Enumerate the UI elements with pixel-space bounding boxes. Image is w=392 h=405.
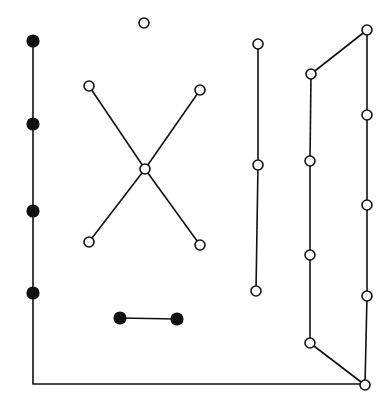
filled-node-b1 xyxy=(114,312,126,324)
filled-node-f4 xyxy=(27,287,39,299)
bottom-frame xyxy=(33,293,365,384)
open-node-xbr xyxy=(195,240,205,250)
nodes-layer xyxy=(27,18,372,390)
open-node-r2 xyxy=(362,110,372,120)
open-node-r4 xyxy=(362,291,372,301)
edge-b1-b2 xyxy=(120,318,177,319)
edge-xc-xbr xyxy=(145,169,200,245)
open-node-m3 xyxy=(251,286,261,296)
open-node-r3 xyxy=(362,200,372,210)
edge-xtr-xc xyxy=(145,90,200,169)
open-node-l2 xyxy=(305,156,315,166)
open-node-xbl xyxy=(84,237,94,247)
edge-r4-r5 xyxy=(365,296,367,385)
edge-l1-l2 xyxy=(310,74,311,161)
open-node-l4 xyxy=(305,338,315,348)
edges-layer xyxy=(33,30,367,385)
open-node-iso xyxy=(139,18,149,28)
edge-l4-r5 xyxy=(310,343,365,385)
open-node-m1 xyxy=(253,39,263,49)
filled-node-f3 xyxy=(27,205,39,217)
filled-node-f2 xyxy=(27,118,39,130)
filled-node-f1 xyxy=(27,35,39,47)
open-node-l3 xyxy=(305,250,315,260)
edge-l1-r1 xyxy=(311,30,367,74)
graph-diagram xyxy=(0,0,392,405)
edge-xc-xbl xyxy=(89,169,145,242)
open-node-l1 xyxy=(306,69,316,79)
open-node-xtl xyxy=(84,81,94,91)
edge-xtl-xc xyxy=(89,86,145,169)
edge-m2-m3 xyxy=(256,165,258,291)
open-node-r5 xyxy=(360,380,370,390)
open-node-r1 xyxy=(362,25,372,35)
open-node-xtr xyxy=(195,85,205,95)
open-node-m2 xyxy=(253,160,263,170)
filled-node-b2 xyxy=(171,313,183,325)
frame-layer xyxy=(33,293,365,384)
open-node-xc xyxy=(140,164,150,174)
